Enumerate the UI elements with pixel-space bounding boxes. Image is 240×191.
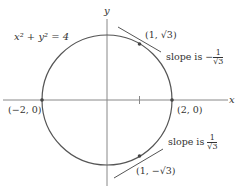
point-label-neg2-0: (−2, 0) [8, 104, 42, 115]
x-axis-label: x [229, 94, 235, 105]
bottom-slope-denominator: √3 [207, 143, 217, 151]
y-axis-label: y [104, 5, 110, 16]
top-slope-text: slope is − [166, 51, 213, 62]
point-label-1-negsqrt3: (1, −√3) [136, 165, 176, 176]
top-slope-annotation: slope is −1√3 [166, 49, 223, 66]
point-1-sqrt3 [138, 42, 142, 46]
point-1-negsqrt3 [138, 154, 142, 158]
equation-label: x² + y² = 4 [14, 31, 69, 42]
top-slope-fraction: 1√3 [213, 49, 223, 66]
point-2-0 [170, 98, 174, 102]
point-label-2-0: (2, 0) [177, 104, 203, 115]
point-neg2-0 [40, 98, 44, 102]
bottom-slope-fraction: 1√3 [207, 134, 217, 151]
point-label-1-sqrt3: (1, √3) [145, 29, 177, 40]
bottom-slope-text: slope is [168, 136, 207, 147]
top-slope-denominator: √3 [213, 58, 223, 66]
circle-diagram [0, 0, 240, 191]
bottom-slope-annotation: slope is 1√3 [168, 134, 217, 151]
